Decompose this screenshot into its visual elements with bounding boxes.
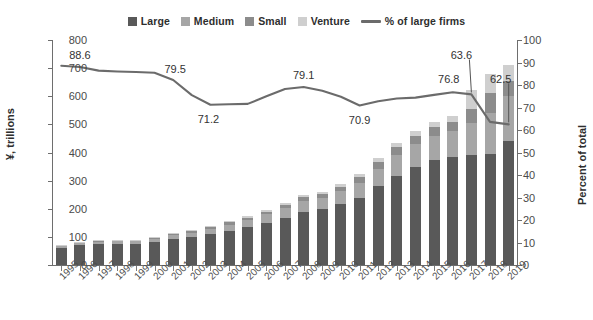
bar-2013[interactable] bbox=[391, 143, 402, 265]
legend-item-venture[interactable]: Venture bbox=[298, 16, 350, 26]
bar-segment-venture bbox=[335, 184, 346, 187]
bar-segment-venture bbox=[242, 216, 253, 218]
bar-segment-small bbox=[335, 187, 346, 192]
bar-segment-venture bbox=[298, 195, 309, 197]
y-axis-left-tick bbox=[48, 96, 52, 97]
bar-segment-small bbox=[447, 122, 458, 132]
data-label-79-5: 79.5 bbox=[164, 63, 185, 75]
bar-segment-medium bbox=[205, 229, 216, 234]
legend-swatch-icon bbox=[128, 17, 137, 26]
data-label-62-5: 62.5 bbox=[490, 73, 511, 85]
legend-item-label: % of large firms bbox=[385, 16, 465, 26]
bar-segment-medium bbox=[74, 243, 85, 245]
bar-segment-medium bbox=[149, 239, 160, 242]
bar-segment-medium bbox=[298, 201, 309, 212]
y-axis-right-tick bbox=[518, 108, 522, 109]
bar-2007[interactable] bbox=[280, 203, 291, 265]
y-axis-left-tick bbox=[48, 153, 52, 154]
bar-segment-medium bbox=[261, 214, 272, 222]
bar-segment-large bbox=[410, 167, 421, 265]
bar-segment-large bbox=[298, 212, 309, 265]
bar-2002[interactable] bbox=[186, 230, 197, 265]
y-axis-left-line bbox=[52, 40, 53, 266]
bar-segment-small bbox=[280, 205, 291, 208]
bar-2018[interactable] bbox=[485, 74, 496, 265]
bar-segment-venture bbox=[280, 203, 291, 205]
legend-line-marker bbox=[361, 20, 381, 23]
bar-segment-medium bbox=[485, 113, 496, 155]
bar-2014[interactable] bbox=[410, 131, 421, 265]
y-axis-right-tick-label: 50 bbox=[523, 147, 535, 159]
bar-segment-medium bbox=[130, 241, 141, 244]
bar-segment-large bbox=[429, 160, 440, 265]
bar-segment-venture bbox=[56, 245, 67, 246]
bar-2004[interactable] bbox=[224, 221, 235, 265]
bar-2005[interactable] bbox=[242, 216, 253, 265]
bar-segment-large bbox=[261, 223, 272, 265]
bar-segment-medium bbox=[242, 220, 253, 227]
bar-segment-venture bbox=[205, 226, 216, 227]
bar-segment-small bbox=[354, 177, 365, 183]
bar-segment-venture bbox=[447, 116, 458, 122]
y-axis-left-tick bbox=[48, 237, 52, 238]
bar-segment-medium bbox=[93, 242, 104, 245]
y-axis-right-tick-label: 100 bbox=[523, 34, 541, 46]
bar-segment-large bbox=[503, 141, 514, 265]
y-axis-right-tick-label: 30 bbox=[523, 192, 535, 204]
bar-segment-venture bbox=[261, 210, 272, 212]
y-axis-right-tick bbox=[518, 40, 522, 41]
legend-item-large[interactable]: Large bbox=[128, 16, 170, 26]
bar-segment-small bbox=[298, 197, 309, 201]
bar-segment-small bbox=[373, 162, 384, 169]
y-axis-left-tick-label: 400 bbox=[69, 147, 87, 159]
bar-segment-venture bbox=[149, 237, 160, 238]
bar-2003[interactable] bbox=[205, 226, 216, 265]
legend-item-label: Small bbox=[258, 16, 287, 26]
bar-segment-large bbox=[391, 176, 402, 265]
data-label-88-6: 88.6 bbox=[69, 49, 90, 61]
bar-segment-medium bbox=[354, 183, 365, 198]
bar-2015[interactable] bbox=[429, 122, 440, 265]
legend-swatch-icon bbox=[245, 17, 254, 26]
y-axis-left-tick-label: 300 bbox=[69, 175, 87, 187]
bar-2012[interactable] bbox=[373, 158, 384, 265]
bar-2011[interactable] bbox=[354, 174, 365, 265]
bar-2017[interactable] bbox=[466, 90, 477, 266]
bar-segment-venture bbox=[168, 233, 179, 234]
y-axis-left-tick-label: 800 bbox=[69, 34, 87, 46]
bar-segment-small bbox=[242, 218, 253, 220]
bar-2008[interactable] bbox=[298, 195, 309, 265]
legend-item-medium[interactable]: Medium bbox=[181, 16, 234, 26]
legend-swatch-icon bbox=[298, 17, 307, 26]
bar-2019[interactable] bbox=[503, 65, 514, 265]
bar-segment-large bbox=[485, 154, 496, 265]
bar-segment-venture bbox=[317, 192, 328, 194]
bar-segment-medium bbox=[168, 235, 179, 239]
bar-segment-medium bbox=[224, 225, 235, 231]
bar-2009[interactable] bbox=[317, 192, 328, 265]
bar-segment-small bbox=[410, 136, 421, 144]
bar-segment-small bbox=[485, 93, 496, 112]
chart-legend: LargeMediumSmallVenture% of large firms bbox=[0, 16, 593, 26]
data-label-79-1: 79.1 bbox=[293, 69, 314, 81]
legend-item-label: Venture bbox=[311, 16, 350, 26]
y-axis-right-tick-label: 80 bbox=[523, 79, 535, 91]
bar-segment-medium bbox=[56, 246, 67, 248]
bar-segment-medium bbox=[466, 123, 477, 155]
bar-segment-large bbox=[317, 209, 328, 265]
bar-segment-small bbox=[56, 245, 67, 246]
bar-segment-venture bbox=[429, 122, 440, 127]
bar-2006[interactable] bbox=[261, 210, 272, 265]
bar-2010[interactable] bbox=[335, 184, 346, 265]
legend-item-of-large-firms[interactable]: % of large firms bbox=[361, 16, 465, 26]
bar-segment-small bbox=[317, 194, 328, 198]
legend-item-small[interactable]: Small bbox=[245, 16, 287, 26]
bar-1995[interactable] bbox=[56, 245, 67, 265]
bar-segment-medium bbox=[186, 233, 197, 238]
y-axis-left-title: ¥, trillions bbox=[4, 108, 16, 160]
y-axis-left-tick bbox=[48, 40, 52, 41]
bar-segment-medium bbox=[317, 198, 328, 209]
bar-2016[interactable] bbox=[447, 116, 458, 265]
bar-segment-venture bbox=[354, 174, 365, 177]
bar-segment-venture bbox=[410, 131, 421, 136]
